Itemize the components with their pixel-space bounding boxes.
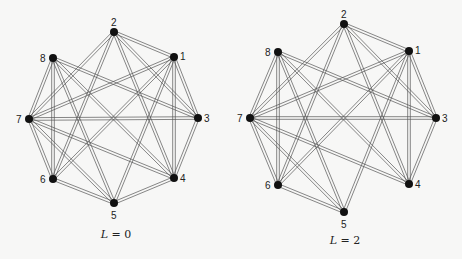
edge-7-8 [30, 58, 54, 119]
edge-2-7 [251, 25, 345, 119]
node-4 [405, 180, 413, 188]
node-label-5: 5 [341, 219, 347, 230]
node-label-8: 8 [40, 53, 46, 64]
edge-1-3 [173, 57, 197, 118]
edge-1-3 [408, 51, 435, 118]
panel-caption: L = 2 [329, 234, 361, 247]
edge-6-7 [251, 117, 279, 184]
node-label-3: 3 [442, 113, 448, 124]
panel-caption: L = 0 [100, 228, 132, 241]
node-label-8: 8 [265, 47, 271, 58]
edge-5-7 [249, 119, 343, 213]
node-3 [432, 114, 440, 122]
edge-5-6 [53, 178, 114, 202]
node-6 [49, 175, 57, 183]
edge-3-8 [53, 59, 198, 119]
edge-3-4 [408, 118, 435, 184]
node-label-4: 4 [415, 179, 421, 190]
edge-5-8 [279, 52, 345, 212]
node-8 [274, 48, 282, 56]
node-8 [49, 54, 57, 62]
node-label-6: 6 [265, 180, 271, 191]
edge-2-7 [249, 23, 343, 117]
edge-4-5 [114, 177, 174, 202]
node-4 [170, 174, 178, 182]
edge-1-6 [54, 58, 175, 180]
edge-1-6 [277, 50, 408, 184]
edge-2-4 [345, 24, 410, 184]
edge-2-4 [343, 24, 408, 184]
node-1 [170, 53, 178, 61]
node-label-2: 2 [341, 9, 347, 20]
node-label-7: 7 [16, 114, 22, 125]
edge-2-7 [28, 31, 113, 118]
node-1 [405, 47, 413, 55]
edge-4-8 [52, 59, 173, 179]
edge-4-7 [29, 118, 174, 177]
edge-5-8 [54, 57, 115, 202]
edge-3-4 [175, 118, 199, 178]
edge-5-7 [251, 117, 345, 211]
node-5 [340, 208, 348, 216]
edge-5-6 [278, 184, 344, 211]
edge-2-6 [52, 32, 113, 179]
node-label-1: 1 [415, 45, 421, 56]
edge-4-8 [277, 53, 408, 185]
node-label-7: 7 [237, 113, 243, 124]
graph-figure: 12345678 L = 0 12345678 L = 2 [0, 0, 462, 259]
node-label-4: 4 [180, 173, 186, 184]
node-label-5: 5 [111, 210, 117, 221]
node-7 [25, 115, 33, 123]
edge-3-4 [410, 118, 437, 184]
node-5 [110, 199, 118, 207]
node-2 [340, 20, 348, 28]
node-label-2: 2 [111, 17, 117, 28]
edge-1-6 [279, 52, 410, 186]
edge-3-8 [277, 53, 435, 119]
edge-2-3 [115, 31, 199, 117]
panel-right-graph: 12345678 L = 2 [237, 9, 448, 247]
edge-2-6 [279, 24, 345, 185]
edge-6-7 [30, 119, 54, 179]
edge-3-4 [173, 118, 197, 178]
edge-1-5 [343, 51, 408, 212]
node-7 [246, 114, 254, 122]
edge-2-3 [345, 23, 437, 117]
edge-7-8 [249, 51, 277, 117]
panel-left-graph: 12345678 L = 0 [16, 17, 210, 241]
edge-1-2 [114, 33, 174, 58]
edge-5-7 [30, 118, 115, 202]
edge-2-4 [115, 32, 175, 178]
node-2 [110, 28, 118, 36]
node-6 [274, 181, 282, 189]
edge-4-7 [250, 119, 409, 185]
edge-1-7 [30, 58, 175, 120]
node-label-6: 6 [40, 174, 46, 185]
edge-1-2 [344, 25, 409, 52]
node-label-3: 3 [204, 113, 210, 124]
node-label-1: 1 [180, 51, 186, 62]
edge-4-8 [279, 51, 410, 183]
edge-1-5 [345, 51, 410, 212]
node-3 [194, 114, 202, 122]
